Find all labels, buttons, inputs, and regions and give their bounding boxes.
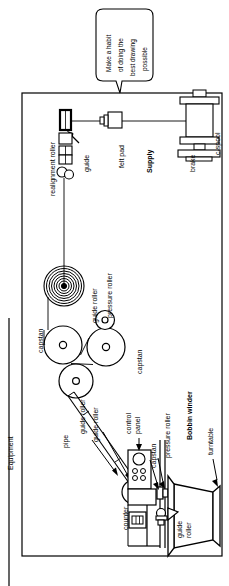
pressure-roller-upper-label: pressure roller xyxy=(106,273,114,318)
supply-section-label: Supply xyxy=(146,150,154,173)
control-panel-label-line2: panel xyxy=(134,417,142,434)
capstan-roller-right xyxy=(87,328,125,366)
diagram-page: Make a habit of doing the best drawing p… xyxy=(0,0,229,586)
guide-roller-b-label: guide roller xyxy=(92,407,100,442)
speech-line-2: of doing the xyxy=(117,38,125,72)
turntable-arrow xyxy=(212,459,218,487)
counter-label: counter xyxy=(122,507,130,530)
felt-pad-label: felt pad xyxy=(118,145,126,168)
control-panel-arrow xyxy=(136,438,142,451)
pressure-roller-lower-label: pressure roller xyxy=(164,413,172,458)
control-panel-component xyxy=(128,450,151,489)
turntable-component xyxy=(168,476,220,556)
brake-label: brake xyxy=(189,154,197,172)
guide-roller-a-label: guide roller xyxy=(79,399,87,434)
capstan-mid-label: capstan xyxy=(136,349,144,374)
guide-label: guide xyxy=(83,155,91,172)
equipment-outer-label: Equipment xyxy=(7,437,15,470)
speech-line-4: possible xyxy=(141,47,149,71)
realignment-roller-label: realignment roller xyxy=(49,142,57,196)
bobbin-winder-section-label: Bobbin winder xyxy=(186,391,194,440)
capstan-upper-label: capstan xyxy=(37,328,45,353)
diagram-canvas xyxy=(0,0,229,586)
guide-roller-bottom-label-line2: roller xyxy=(185,522,193,538)
guide-roller-lower-cluster xyxy=(59,364,93,398)
turntable-label: turntable xyxy=(207,428,215,455)
guide-roller-bottom-label-line1: guide xyxy=(176,521,184,538)
capstan-lower-label: capstan xyxy=(150,443,158,468)
speech-line-1: Make a habit xyxy=(105,35,113,72)
capstan-roller-upper xyxy=(44,326,82,364)
c-spool-label: c-spool xyxy=(214,132,222,155)
pipe-label: pipe xyxy=(62,435,70,448)
counter-component xyxy=(129,512,146,528)
realignment-roller-component xyxy=(57,133,74,179)
guide-roller-upper-label: guide roller xyxy=(91,288,99,323)
speech-line-3: best drawing xyxy=(129,39,137,76)
control-panel-label-line1: control xyxy=(125,413,133,434)
felt-pad-component xyxy=(100,112,122,128)
guide-component xyxy=(60,110,71,130)
